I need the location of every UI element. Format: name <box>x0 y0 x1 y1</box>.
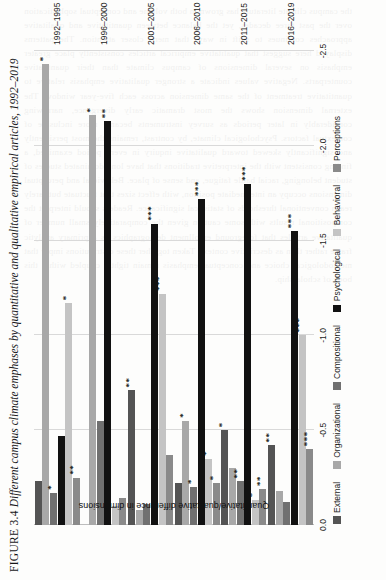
legend-label: Organizational <box>332 403 342 458</box>
legend-item-perceptions: Perceptions <box>332 116 342 172</box>
legend-item-organizational: Organizational <box>332 403 342 469</box>
bar-group: *****1992–1995 <box>34 51 81 525</box>
significance-marker: *** <box>195 181 201 196</box>
chart-legend: ExternalOrganizationalCompositionalPsych… <box>332 116 342 524</box>
significance-marker: * <box>87 108 93 113</box>
bar-group: ***1996–2000 <box>81 51 128 525</box>
value-axis-tick-label: -1.5 <box>318 233 328 248</box>
bar-psychological <box>104 121 111 525</box>
figure-number: FIGURE 3.4 <box>8 510 20 572</box>
significance-marker: * <box>219 422 225 427</box>
bar-behavioral <box>65 303 72 525</box>
bar-group: ***********2016–2019 <box>267 51 314 525</box>
legend-swatch-icon <box>333 305 341 313</box>
significance-marker: * <box>188 479 194 484</box>
significance-marker: * <box>249 492 255 497</box>
legend-swatch-icon <box>333 383 341 391</box>
legend-item-psychological: Psychological <box>332 249 342 312</box>
significance-marker: * <box>210 475 216 480</box>
significance-marker: *** <box>156 276 162 291</box>
value-axis-tick-label: -0.5 <box>318 423 328 438</box>
category-axis-label: 2006–2010 <box>192 2 202 45</box>
category-axis-label: 1992–1995 <box>52 2 62 45</box>
category-axis-label: 2011–2015 <box>239 3 249 45</box>
bar-perceptions <box>306 449 313 525</box>
bar-organizational <box>136 510 143 525</box>
significance-marker: * <box>48 485 54 490</box>
category-axis-label: 1996–2000 <box>99 2 109 45</box>
bar-psychological <box>198 199 205 525</box>
bar-group: *********2011–2015 <box>221 51 268 525</box>
significance-marker: ** <box>102 108 108 118</box>
value-axis-tick-label: -2.0 <box>318 138 328 153</box>
bar-psychological <box>244 184 251 525</box>
legend-swatch-icon <box>333 229 341 237</box>
significance-marker: *** <box>296 318 302 333</box>
bar-organizational <box>89 115 96 525</box>
value-axis-tick-label: -1.0 <box>318 328 328 343</box>
significance-marker: *** <box>304 431 310 446</box>
significance-marker: *** <box>242 166 248 181</box>
value-axis-tick-label: -2.5 <box>318 44 328 59</box>
significance-marker: * <box>63 295 69 300</box>
significance-marker: ** <box>234 469 240 479</box>
significance-marker: *** <box>148 206 154 221</box>
legend-label: External <box>332 482 342 513</box>
legend-label: Behavioral <box>332 185 342 225</box>
significance-marker: * <box>40 56 46 61</box>
chart-plot-area: 0.0-0.5-1.0-1.5-2.0-2.5 *****1992–1995**… <box>34 51 314 525</box>
legend-label: Perceptions <box>332 116 342 161</box>
legend-swatch-icon <box>333 517 341 525</box>
significance-marker: ** <box>266 433 272 443</box>
bar-psychological <box>58 436 65 525</box>
bar-external <box>268 445 275 525</box>
figure-stage: FIGURE 3.4 Different campus climate emph… <box>0 0 386 580</box>
significance-marker: ** <box>126 378 132 388</box>
bar-perceptions <box>166 455 173 525</box>
significance-marker: ** <box>70 465 76 475</box>
bar-organizational <box>42 64 49 525</box>
legend-item-external: External <box>332 482 342 524</box>
category-axis-label: 2001–2005 <box>146 2 156 45</box>
significance-marker: * <box>203 451 209 456</box>
legend-label: Compositional <box>332 325 342 379</box>
significance-marker: ** <box>257 476 263 486</box>
significance-marker: *** <box>288 213 294 228</box>
bar-psychological <box>151 224 158 525</box>
significance-marker: * <box>180 413 186 418</box>
bar-behavioral <box>159 294 166 525</box>
legend-item-compositional: Compositional <box>332 325 342 390</box>
value-axis-title: Quantitative/qualitative difference in d… <box>34 501 314 511</box>
category-axis-label: 2016–2019 <box>286 2 296 45</box>
bar-group: ********2001–2005 <box>127 51 174 525</box>
bar-group: *******2006–2010 <box>174 51 221 525</box>
legend-swatch-icon <box>333 461 341 469</box>
bar-behavioral <box>205 459 212 525</box>
legend-label: Psychological <box>332 249 342 301</box>
legend-swatch-icon <box>333 164 341 172</box>
figure-caption-text: Different campus climate emphases by qua… <box>8 58 20 507</box>
figure-caption: FIGURE 3.4 Different campus climate emph… <box>8 12 20 572</box>
value-axis-tick-label: 0.0 <box>318 519 328 531</box>
legend-item-behavioral: Behavioral <box>332 185 342 236</box>
bar-psychological <box>291 231 298 525</box>
